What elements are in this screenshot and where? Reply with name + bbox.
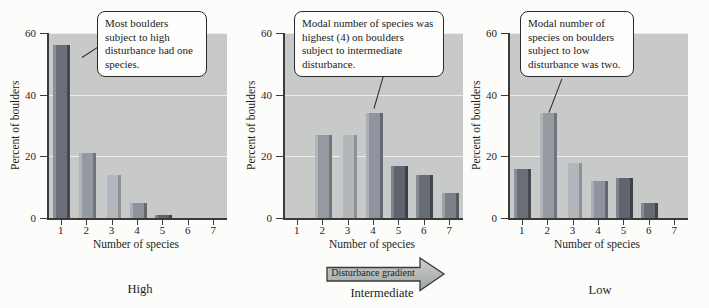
y-tick-label-60: 60 (471, 26, 497, 40)
y-tick-label-40: 40 (246, 88, 272, 102)
x-tick-label-3: 3 (102, 224, 122, 236)
y-tick-label-20: 20 (246, 149, 272, 163)
bar-species-4 (366, 113, 383, 218)
y-tick-label-40: 40 (471, 88, 497, 102)
x-tick-label-5: 5 (152, 224, 172, 236)
x-tick-label-6: 6 (414, 224, 434, 236)
x-tick-label-2: 2 (312, 224, 332, 236)
y-axis-title: Percent of boulders (243, 33, 259, 218)
y-tick-mark-60 (501, 33, 508, 34)
y-tick-mark-0 (501, 218, 508, 219)
x-tick-label-5: 5 (388, 224, 408, 236)
bar-chart-low-disturbance: Percent of boulders Number of species Mo… (470, 0, 709, 255)
x-tick-label-1: 1 (51, 224, 71, 236)
y-tick-label-0: 0 (246, 211, 272, 225)
x-tick-label-4: 4 (127, 224, 147, 236)
x-tick-label-1: 1 (512, 224, 532, 236)
bar-species-5 (616, 178, 633, 218)
bar-species-5 (155, 215, 172, 218)
callout-text: Most boulders subject to high disturbanc… (105, 17, 193, 70)
x-axis-title: Number of species (508, 238, 686, 250)
y-tick-label-0: 0 (471, 211, 497, 225)
x-tick-label-2: 2 (76, 224, 96, 236)
x-tick-label-4: 4 (588, 224, 608, 236)
bar-species-2 (540, 113, 557, 218)
species-richness-figure: Percent of boulders Number of species Mo… (0, 0, 709, 308)
x-tick-label-3: 3 (563, 224, 583, 236)
x-tick-label-7: 7 (203, 224, 223, 236)
caption-fragment-text: Figure 16.16 (6, 303, 706, 308)
bar-chart-high-disturbance: Percent of boulders Number of species Mo… (0, 0, 236, 255)
bar-species-2 (79, 153, 96, 218)
bar-species-4 (130, 203, 147, 218)
y-tick-label-20: 20 (10, 149, 36, 163)
x-tick-label-7: 7 (664, 224, 684, 236)
bar-species-3 (565, 163, 582, 219)
gridline-20 (510, 156, 688, 157)
gridline-40 (285, 95, 463, 96)
callout-box: Modal number of species on boulders subj… (520, 11, 634, 77)
x-tick-label-2: 2 (537, 224, 557, 236)
gridline-20 (49, 156, 227, 157)
y-tick-mark-40 (40, 95, 47, 96)
bar-species-6 (641, 203, 658, 218)
callout-text: Modal number of species was highest (4) … (302, 17, 433, 70)
gridline-40 (49, 95, 227, 96)
bar-species-7 (442, 193, 459, 218)
x-tick-label-5: 5 (613, 224, 633, 236)
y-tick-label-20: 20 (471, 149, 497, 163)
y-tick-mark-0 (276, 218, 283, 219)
y-tick-mark-40 (501, 95, 508, 96)
y-tick-mark-20 (40, 156, 47, 157)
bar-species-3 (104, 175, 121, 218)
x-axis-title: Number of species (47, 238, 225, 250)
bar-species-2 (315, 135, 332, 218)
x-tick-label-3: 3 (338, 224, 358, 236)
bar-species-3 (340, 135, 357, 218)
cropped-caption: Figure 16.16 (6, 300, 706, 308)
x-tick-label-6: 6 (639, 224, 659, 236)
x-tick-label-7: 7 (439, 224, 459, 236)
gridline-40 (510, 95, 688, 96)
y-axis-title: Percent of boulders (468, 33, 484, 218)
disturbance-gradient-band: Disturbance gradient High Intermediate L… (0, 255, 709, 300)
y-tick-mark-0 (40, 218, 47, 219)
gradient-level-low: Low (550, 283, 650, 298)
bar-species-6 (416, 175, 433, 218)
bar-species-4 (591, 181, 608, 218)
callout-text: Modal number of species on boulders subj… (528, 17, 621, 70)
gradient-level-high: High (90, 282, 190, 297)
y-tick-mark-60 (40, 33, 47, 34)
y-tick-mark-40 (276, 95, 283, 96)
bar-species-5 (391, 166, 408, 218)
y-tick-label-60: 60 (10, 26, 36, 40)
y-axis-title: Percent of boulders (7, 33, 23, 218)
y-tick-label-0: 0 (10, 211, 36, 225)
bar-species-1 (514, 169, 531, 218)
y-tick-mark-60 (276, 33, 283, 34)
disturbance-gradient-label: Disturbance gradient (327, 266, 419, 279)
y-tick-mark-20 (276, 156, 283, 157)
callout-box: Modal number of species was highest (4) … (294, 11, 444, 77)
x-tick-label-6: 6 (178, 224, 198, 236)
y-tick-label-60: 60 (246, 26, 272, 40)
y-tick-mark-20 (501, 156, 508, 157)
y-tick-label-40: 40 (10, 88, 36, 102)
callout-box: Most boulders subject to high disturbanc… (97, 11, 207, 77)
bar-species-1 (53, 45, 70, 218)
x-tick-label-1: 1 (287, 224, 307, 236)
x-axis-title: Number of species (283, 238, 461, 250)
bar-chart-intermediate-disturbance: Percent of boulders Number of species Mo… (236, 0, 470, 255)
x-tick-label-4: 4 (363, 224, 383, 236)
